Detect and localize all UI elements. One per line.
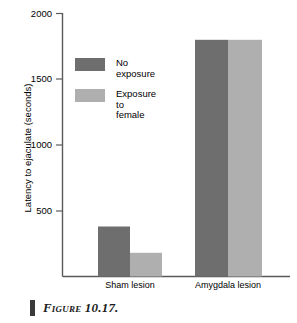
caption-marker-bar — [30, 300, 35, 316]
legend-swatch-exposure-to-female — [75, 89, 105, 102]
y-tick-label-1000: 1000 — [18, 139, 52, 150]
bar-sham-exposure-to-female — [130, 253, 162, 277]
figure-10-17: Latency to ejaculate (seconds) 2000 1500… — [0, 0, 297, 323]
bar-sham-no-exposure — [98, 227, 130, 277]
legend-label-exposure-to-female: Exposure to female — [116, 89, 156, 121]
bar-amygdala-exposure-to-female — [228, 40, 262, 277]
bar-chart: Latency to ejaculate (seconds) 2000 1500… — [0, 0, 297, 296]
legend-item-no-exposure: No exposure — [75, 58, 155, 79]
legend-swatch-no-exposure — [75, 58, 105, 71]
y-tick-label-500: 500 — [18, 205, 52, 216]
figure-caption: Figure 10.17. — [30, 300, 119, 316]
y-tick-label-1500: 1500 — [18, 73, 52, 84]
x-category-label-sham: Sham lesion — [90, 280, 170, 290]
legend-label-no-exposure: No exposure — [116, 58, 155, 79]
bar-amygdala-no-exposure — [195, 40, 228, 277]
caption-text: Figure 10.17. — [43, 300, 119, 316]
y-tick-label-2000: 2000 — [18, 8, 52, 19]
legend-item-exposure-to-female: Exposure to female — [75, 89, 156, 121]
x-category-label-amygdala: Amygdala lesion — [180, 280, 276, 290]
